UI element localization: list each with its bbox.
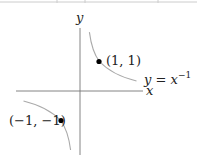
- point-label-1-1: (1, 1): [106, 53, 141, 68]
- y-axis-label: y: [75, 10, 84, 25]
- function-label: y = x−1: [143, 70, 191, 87]
- point-1-1: [96, 59, 101, 64]
- hyperbola-diagram: y x (1, 1) (−1, −1) y = x−1: [0, 0, 197, 165]
- point-label-neg1-neg1: (−1, −1): [9, 113, 66, 128]
